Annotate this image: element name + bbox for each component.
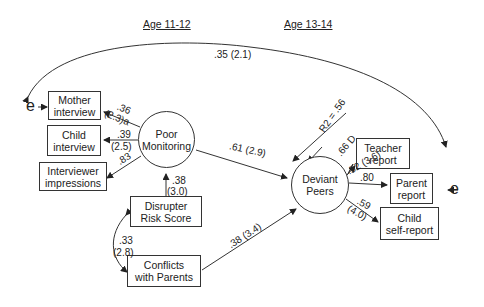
- node-conflicts-with-parents: Conflicts with Parents: [127, 255, 201, 287]
- label-drs-cwp-t: (2.8): [113, 247, 134, 258]
- node-label: Child: [381, 212, 438, 224]
- node-label: self-report: [381, 224, 438, 236]
- label-error-covariance: .35 (2.1): [214, 49, 251, 60]
- node-label: impressions: [40, 177, 106, 189]
- node-label: Parent: [391, 177, 432, 189]
- node-child-interview: Child interview: [47, 125, 101, 156]
- node-label: Monitoring: [139, 140, 194, 152]
- header-age-13-14: Age 13-14: [284, 18, 332, 30]
- node-label: Poor: [139, 128, 194, 140]
- node-label: Teacher: [357, 142, 409, 154]
- node-label: interview: [49, 106, 100, 118]
- node-deviant-peers: Deviant Peers: [291, 156, 349, 214]
- node-label: report: [391, 189, 432, 201]
- node-label: Conflicts: [128, 259, 200, 271]
- node-label: Disrupter: [131, 200, 201, 212]
- error-term-right: e: [450, 181, 459, 197]
- node-mother-interview: Mother interview: [48, 91, 101, 120]
- node-parent-report: Parent report: [390, 173, 433, 204]
- node-label: Interviewer: [40, 165, 106, 177]
- node-interviewer-impressions: Interviewer impressions: [39, 162, 107, 191]
- node-disrupter-risk-score: Disrupter Risk Score: [130, 196, 202, 227]
- node-label: Peers: [292, 185, 348, 197]
- node-label: Mother: [49, 94, 100, 106]
- node-poor-monitoring: Poor Monitoring: [138, 111, 195, 168]
- node-child-self-report: Child self-report: [380, 207, 439, 240]
- label-pm-child-t: (2.5): [111, 141, 132, 152]
- label-drs-to-pm: .38: [172, 175, 186, 186]
- node-label: Deviant: [292, 173, 348, 185]
- node-label: interview: [48, 141, 100, 153]
- label-pm-child: .39: [117, 129, 131, 140]
- error-term-left: e: [26, 98, 35, 114]
- node-label: with Parents: [128, 271, 200, 283]
- node-label: Risk Score: [131, 212, 201, 224]
- header-age-11-12: Age 11-12: [143, 18, 191, 30]
- node-label: Child: [48, 129, 100, 141]
- label-drs-cwp: .33: [119, 235, 133, 246]
- label-dp-parent: .80: [360, 172, 374, 183]
- label-drs-to-pm-t: (3.0): [167, 186, 188, 197]
